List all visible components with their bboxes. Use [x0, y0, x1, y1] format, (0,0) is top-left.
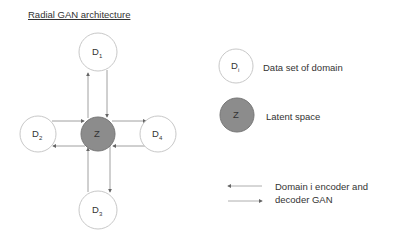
node-d1-label: D1 [92, 46, 102, 59]
diagram-canvas [0, 0, 394, 233]
node-d4-label: D4 [152, 128, 162, 141]
legend-latent-text: Latent space [266, 111, 320, 122]
legend-arrows-text-line2: decoder GAN [275, 194, 333, 205]
legend-domain-text: Data set of domain [263, 62, 343, 73]
node-z-label: Z [94, 128, 100, 139]
legend-domain-symbol: Di [231, 60, 239, 73]
legend-arrows-text-line1: Domain i encoder and [275, 181, 368, 192]
node-d3-label: D3 [92, 204, 102, 217]
legend-latent-symbol: Z [233, 109, 239, 120]
node-d2-label: D2 [32, 128, 42, 141]
